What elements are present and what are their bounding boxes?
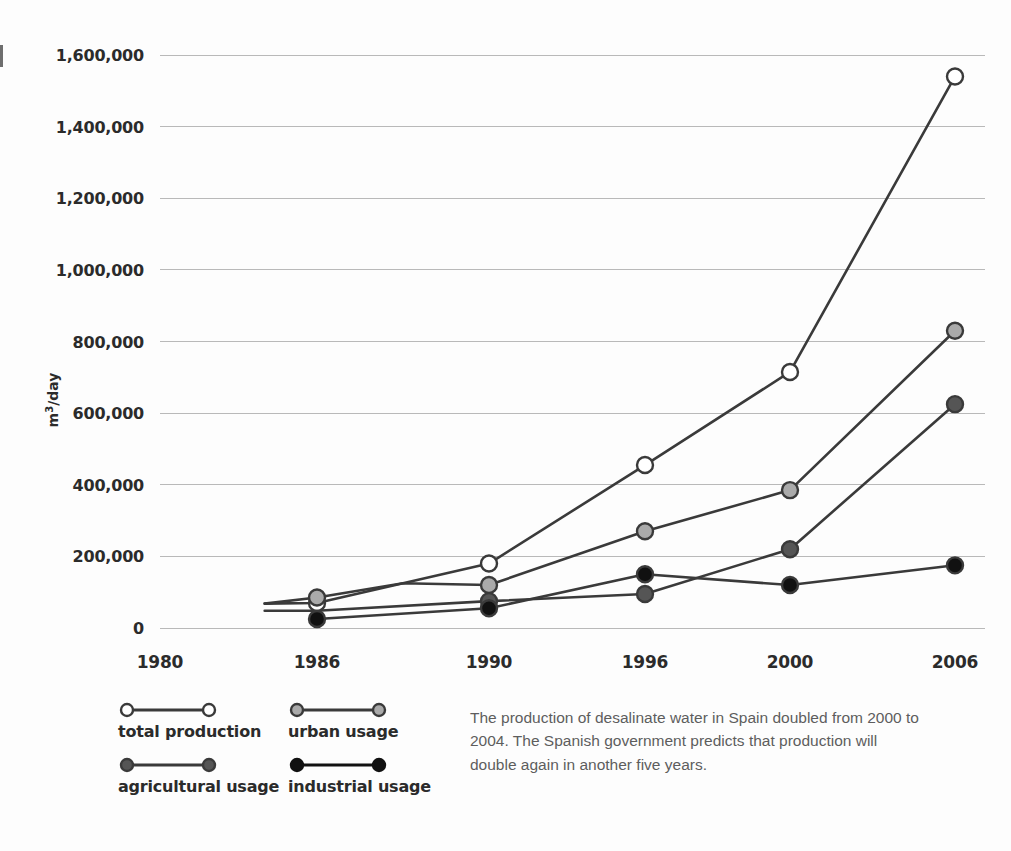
y-axis-tick-label: 1,400,000 xyxy=(56,118,144,137)
data-point-total-production-1996[interactable] xyxy=(637,457,653,473)
chart-plot-svg: 0200,000400,000600,000800,0001,000,0001,… xyxy=(0,0,1011,690)
legend-item-total-production[interactable]: total production xyxy=(118,700,288,741)
y-axis-tick-label: 1,200,000 xyxy=(56,189,144,208)
y-axis-tick-label: 600,000 xyxy=(73,404,145,423)
legend-label-total-production: total production xyxy=(118,722,288,741)
data-point-urban-usage-1990[interactable] xyxy=(481,577,497,593)
series-line-urban-usage xyxy=(265,331,955,604)
y-axis-tick-label: 1,000,000 xyxy=(56,261,144,280)
chart-legend: total production urban usage agricultura… xyxy=(118,700,458,810)
legend-item-industrial-usage[interactable]: industrial usage xyxy=(288,755,458,796)
data-point-urban-usage-1986[interactable] xyxy=(309,590,325,606)
legend-swatch-agricultural-usage xyxy=(118,755,218,775)
page-canvas: 0200,000400,000600,000800,0001,000,0001,… xyxy=(0,0,1011,851)
series-line-agricultural-usage xyxy=(265,404,955,611)
grid-lines xyxy=(160,55,985,628)
series-line-total-production xyxy=(265,76,955,603)
data-point-industrial-usage-1996[interactable] xyxy=(637,566,653,582)
y-axis-tick-label: 400,000 xyxy=(73,476,145,495)
legend-swatch-total-production xyxy=(118,700,218,720)
x-axis-tick-label: 1996 xyxy=(622,652,669,672)
data-point-industrial-usage-2006[interactable] xyxy=(947,557,963,573)
y-axis-tick-label: 800,000 xyxy=(73,333,145,352)
data-point-industrial-usage-2000[interactable] xyxy=(782,577,798,593)
data-point-urban-usage-2006[interactable] xyxy=(947,323,963,339)
legend-label-agricultural-usage: agricultural usage xyxy=(118,777,288,796)
y-axis-tick-label: 200,000 xyxy=(73,547,145,566)
legend-row-1: total production urban usage xyxy=(118,700,458,755)
legend-label-urban-usage: urban usage xyxy=(288,722,458,741)
data-point-industrial-usage-1986[interactable] xyxy=(309,611,325,627)
y-axis-tick-label: 1,600,000 xyxy=(56,46,144,65)
x-axis-tick-label: 1980 xyxy=(137,652,184,672)
legend-swatch-industrial-usage xyxy=(288,755,388,775)
data-point-industrial-usage-1990[interactable] xyxy=(481,600,497,616)
x-axis-tick-label: 1986 xyxy=(294,652,341,672)
y-axis-tick-labels: 0200,000400,000600,000800,0001,000,0001,… xyxy=(56,46,144,638)
data-point-agricultural-usage-1996[interactable] xyxy=(637,586,653,602)
series-lines xyxy=(265,76,955,619)
data-point-urban-usage-2000[interactable] xyxy=(782,482,798,498)
data-point-urban-usage-1996[interactable] xyxy=(637,523,653,539)
x-axis-tick-label: 1990 xyxy=(466,652,513,672)
series-markers xyxy=(309,68,963,627)
x-axis-tick-label: 2000 xyxy=(767,652,814,672)
legend-label-industrial-usage: industrial usage xyxy=(288,777,458,796)
y-axis-title: m3/day xyxy=(44,373,61,428)
legend-item-agricultural-usage[interactable]: agricultural usage xyxy=(118,755,288,796)
data-point-total-production-2006[interactable] xyxy=(947,68,963,84)
data-point-agricultural-usage-2006[interactable] xyxy=(947,396,963,412)
x-axis-tick-labels: 198019861990199620002006 xyxy=(137,652,979,672)
x-axis-tick-label: 2006 xyxy=(932,652,979,672)
legend-swatch-urban-usage xyxy=(288,700,388,720)
data-point-agricultural-usage-2000[interactable] xyxy=(782,541,798,557)
data-point-total-production-2000[interactable] xyxy=(782,364,798,380)
legend-row-2: agricultural usage industrial usage xyxy=(118,755,458,810)
data-point-total-production-1990[interactable] xyxy=(481,556,497,572)
chart-caption: The production of desalinate water in Sp… xyxy=(470,706,920,776)
legend-item-urban-usage[interactable]: urban usage xyxy=(288,700,458,741)
y-axis-tick-label: 0 xyxy=(133,619,144,638)
